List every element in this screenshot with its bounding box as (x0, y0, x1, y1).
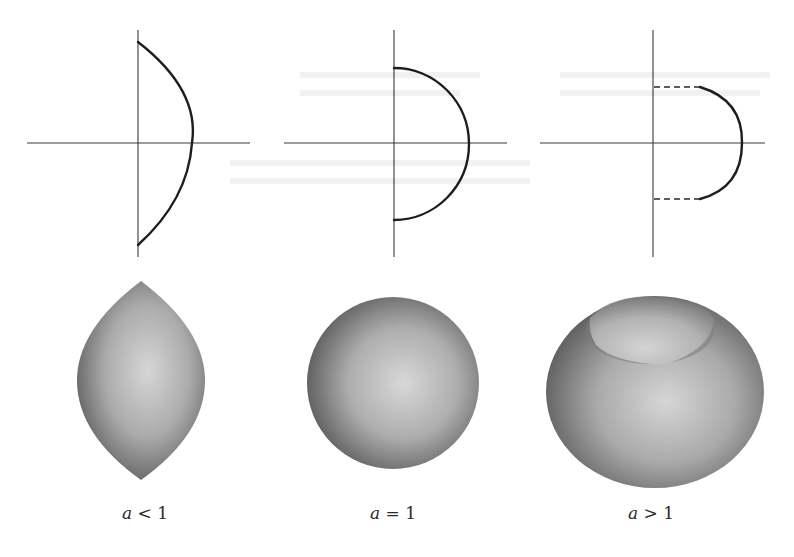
scan-bleed-through (230, 72, 770, 184)
sphere-surface (307, 297, 479, 469)
profile-plot-a-greater-than-1 (540, 30, 765, 257)
profile-plot-a-equal-1 (284, 30, 507, 257)
surface-of-revolution-sphere (307, 297, 479, 469)
profile-plot-a-less-than-1 (27, 30, 250, 257)
caption-a-equal-1: a = 1 (333, 503, 453, 523)
caption-value: 1 (157, 503, 168, 523)
caption-relation: < (138, 503, 152, 523)
caption-relation: > (644, 503, 658, 523)
caption-relation: = (386, 503, 400, 523)
figure-canvas (0, 0, 794, 557)
panel-a-less-than-1 (27, 30, 250, 480)
lemon-surface (77, 281, 205, 480)
surface-of-revolution-apple (546, 296, 764, 488)
panel-a-greater-than-1 (540, 30, 765, 488)
surface-of-revolution-lemon (77, 281, 205, 480)
caption-variable: a (370, 503, 380, 523)
caption-value: 1 (405, 503, 416, 523)
caption-variable: a (122, 503, 132, 523)
caption-a-greater-than-1: a > 1 (591, 503, 711, 523)
caption-value: 1 (663, 503, 674, 523)
caption-a-less-than-1: a < 1 (85, 503, 205, 523)
caption-variable: a (628, 503, 638, 523)
